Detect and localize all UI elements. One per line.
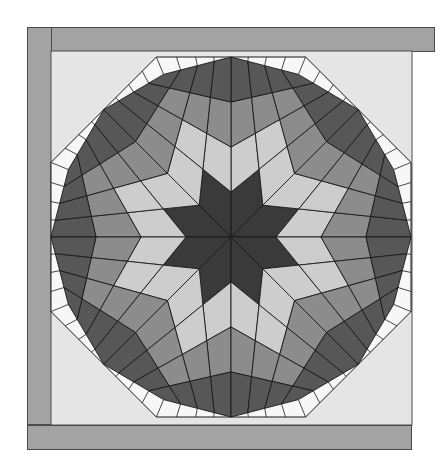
lone-star-block	[0, 0, 448, 472]
star-diamonds	[51, 57, 411, 417]
